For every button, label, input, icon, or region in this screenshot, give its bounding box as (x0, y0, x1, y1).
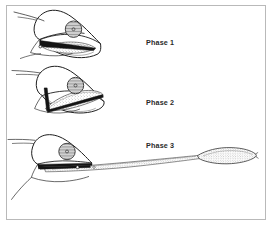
phase-3-label: Phase 3 (146, 142, 174, 149)
eye-phase-2 (67, 77, 83, 93)
eye-phase-1 (65, 21, 81, 37)
phase-diagram-illustration (0, 0, 273, 226)
phase-2-drawing (12, 66, 104, 113)
phase-2-label: Phase 2 (146, 99, 174, 106)
phase-1-drawing (14, 10, 101, 58)
phase-1-label: Phase 1 (146, 39, 174, 46)
phase-3-drawing (8, 135, 258, 200)
eye-phase-3 (59, 143, 75, 159)
figure-root: Phase 1 Phase 2 Phase 3 (0, 0, 273, 226)
